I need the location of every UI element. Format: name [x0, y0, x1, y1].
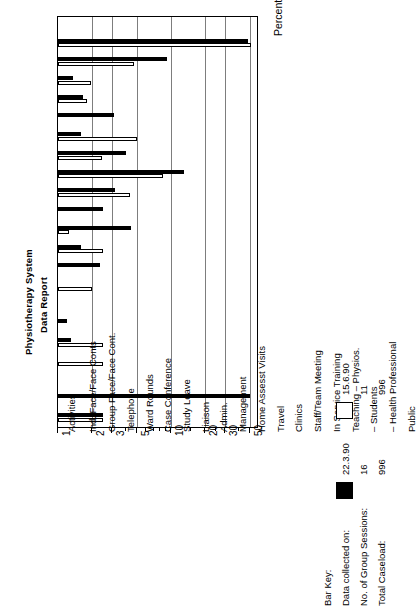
category-label-7: Admin.: [219, 402, 228, 432]
legend-row-label-date: Data collected on:: [340, 530, 351, 606]
bar-1-6: [58, 156, 102, 160]
category-label-6: Liaison: [201, 402, 210, 432]
bar-0-4: [58, 113, 114, 117]
category-label-4: Case Conference: [163, 358, 172, 432]
bar-0-0: [58, 39, 248, 43]
bar-0-6: [58, 151, 126, 155]
legend-value-sessions-2: 11: [358, 385, 369, 395]
legend-heading: Bar Key:: [322, 570, 333, 606]
bar-0-2: [58, 76, 73, 80]
bar-0-10: [58, 226, 131, 230]
bar-0-11: [58, 245, 81, 249]
gridline-50: [250, 17, 251, 427]
bar-1-10: [58, 230, 69, 234]
category-label-11: Clinics: [294, 404, 303, 432]
category-label-10: Travel: [276, 406, 285, 432]
bar-1-0: [58, 43, 251, 47]
gridline-30: [225, 17, 226, 427]
bar-0-3: [58, 95, 83, 99]
gridline-5: [137, 17, 138, 427]
legend-value-caseload-2: 996: [376, 379, 387, 395]
bar-1-8: [58, 193, 130, 197]
bar-0-1: [58, 57, 167, 61]
legend-row-label-caseload: Total Caseload:: [376, 541, 387, 606]
category-axis-title: Activities: [67, 395, 76, 432]
legend-row-label-sessions: No. of Group Sessions:: [358, 508, 369, 606]
legend-value-sessions-1: 16: [358, 464, 369, 475]
category-label-9: Home Assesst Visits: [257, 346, 266, 432]
bar-1-13: [58, 287, 92, 291]
legend-swatch-15-6-90: [336, 402, 353, 419]
report-title-line2: Data Report: [36, 195, 51, 355]
category-label-2: Telephone: [126, 388, 135, 432]
bar-0-15: [58, 319, 67, 323]
bar-1-7: [58, 174, 163, 178]
legend-bar-key: Bar Key: Data collected on: No. of Group…: [318, 360, 418, 610]
gridline-20: [205, 17, 206, 427]
page-title: Physiotherapy System Data Report: [21, 195, 51, 355]
category-label-5: Study Leave: [182, 379, 191, 432]
category-label-3: Ward Rounds: [145, 374, 154, 432]
value-tick-minor-25: [215, 428, 216, 431]
legend-value-caseload-1: 996: [376, 459, 387, 475]
value-tick-minor-8: [159, 428, 160, 431]
bar-0-7: [58, 170, 184, 174]
bar-1-11: [58, 249, 103, 253]
legend-value-date-2: 15.6.90: [340, 363, 351, 395]
bar-1-5: [58, 137, 137, 141]
category-label-0: Ind. Face/Face Conts: [88, 341, 97, 432]
bar-0-12: [58, 263, 100, 267]
report-title-line1: Physiotherapy System: [21, 195, 36, 355]
bar-1-2: [58, 81, 91, 85]
bar-0-8: [58, 188, 115, 192]
bar-0-5: [58, 132, 81, 136]
legend-value-date-1: 22.3.90: [340, 443, 351, 475]
bar-0-16: [58, 338, 71, 342]
category-axis-labels: ActivitiesInd. Face/Face ContsGroup Face…: [57, 432, 258, 612]
category-label-8: Management: [238, 377, 247, 432]
bar-1-1: [58, 62, 134, 66]
bar-0-9: [58, 207, 103, 211]
value-axis-title: Percentage of Actual Time: [272, 0, 284, 36]
bar-1-3: [58, 99, 87, 103]
legend-swatch-22-3-90: [336, 482, 353, 499]
category-label-1: Group Face/Face Cont.: [107, 333, 116, 432]
